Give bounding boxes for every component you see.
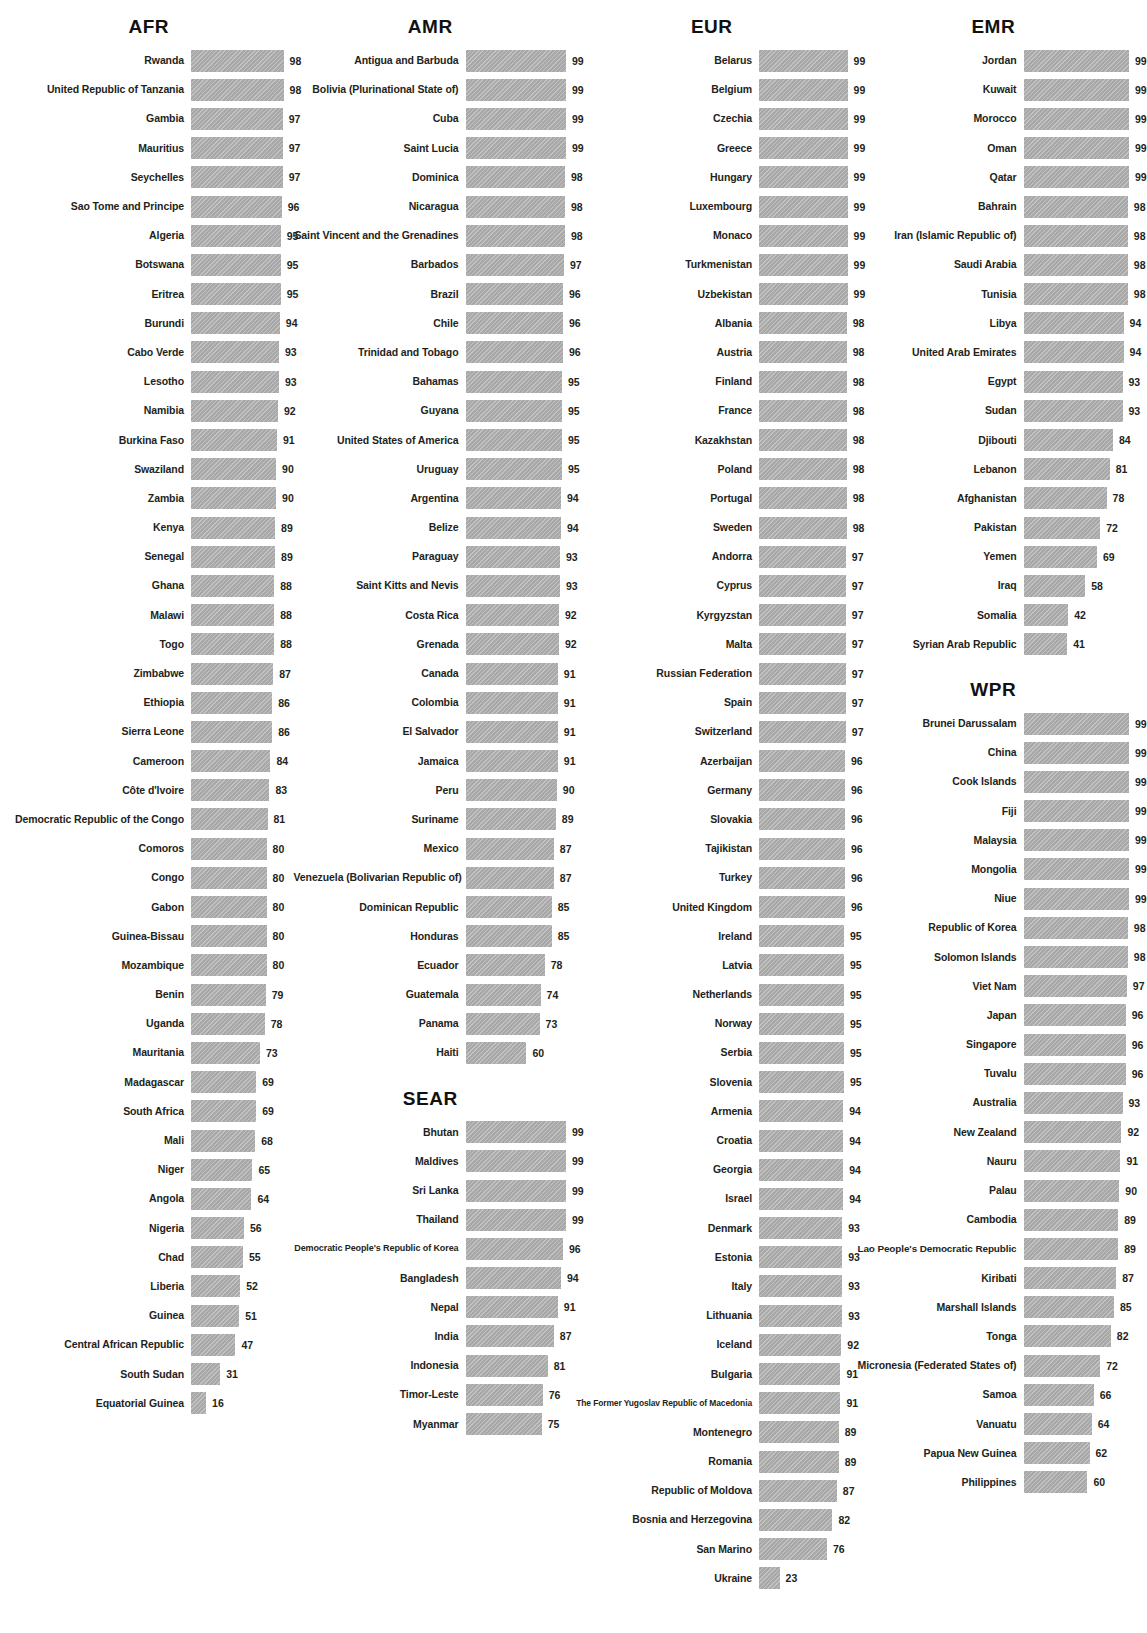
bar-track: 96 bbox=[466, 283, 568, 305]
bar-row: Norway95 bbox=[575, 1009, 849, 1038]
bar bbox=[191, 400, 278, 422]
bar-track: 98 bbox=[759, 487, 849, 509]
bar-row: Armenia94 bbox=[575, 1097, 849, 1126]
bar-row: Antigua and Barbuda99 bbox=[294, 46, 568, 75]
bar bbox=[759, 1363, 840, 1385]
bar bbox=[191, 108, 283, 130]
bar bbox=[466, 721, 558, 743]
bar-track: 97 bbox=[759, 546, 849, 568]
bar-label: Luxembourg bbox=[575, 201, 759, 212]
bar bbox=[191, 166, 283, 188]
bar bbox=[759, 108, 848, 130]
bar-value: 98 bbox=[847, 492, 865, 504]
bar bbox=[759, 458, 847, 480]
bar-value: 89 bbox=[275, 551, 293, 563]
bar-value: 86 bbox=[272, 726, 290, 738]
bar-row: Uganda78 bbox=[12, 1009, 286, 1038]
bar-track: 93 bbox=[1024, 371, 1131, 393]
bar-track: 97 bbox=[191, 108, 286, 130]
bar-row: Syrian Arab Republic41 bbox=[857, 630, 1131, 659]
bar bbox=[1024, 517, 1101, 539]
bar-track: 93 bbox=[466, 546, 568, 568]
bar bbox=[191, 1392, 206, 1414]
bar-value: 95 bbox=[562, 376, 580, 388]
bar-track: 98 bbox=[191, 79, 286, 101]
bar-track: 89 bbox=[191, 546, 286, 568]
bar-track: 76 bbox=[466, 1384, 568, 1406]
bar-row: Yemen69 bbox=[857, 542, 1131, 571]
bar-label: Samoa bbox=[857, 1389, 1024, 1400]
bar-value: 97 bbox=[846, 668, 864, 680]
bar-row: Azerbaijan96 bbox=[575, 747, 849, 776]
bar-row: Slovenia95 bbox=[575, 1068, 849, 1097]
group-title-eur: EUR bbox=[575, 14, 849, 38]
bar-label: Brunei Darussalam bbox=[857, 718, 1024, 729]
group-title-afr: AFR bbox=[12, 14, 286, 38]
bar-track: 87 bbox=[466, 838, 568, 860]
bar-label: Timor-Leste bbox=[294, 1389, 466, 1400]
bar-row: Paraguay93 bbox=[294, 542, 568, 571]
bar-value: 94 bbox=[843, 1164, 861, 1176]
bar-label: Marshall Islands bbox=[857, 1302, 1024, 1313]
bar bbox=[466, 487, 561, 509]
bar-label: Syrian Arab Republic bbox=[857, 639, 1024, 650]
bar-row: Guatemala74 bbox=[294, 980, 568, 1009]
bar-label: Oman bbox=[857, 143, 1024, 154]
bar-row: Palau90 bbox=[857, 1176, 1131, 1205]
bar-value: 97 bbox=[846, 726, 864, 738]
bar-value: 99 bbox=[1129, 747, 1147, 759]
bar-row: Republic of Korea98 bbox=[857, 913, 1131, 942]
bar-row: Eritrea95 bbox=[12, 280, 286, 309]
bar-value: 91 bbox=[558, 697, 576, 709]
bar-label: Paraguay bbox=[294, 551, 466, 562]
bar-track: 31 bbox=[191, 1363, 286, 1385]
bar bbox=[191, 517, 275, 539]
bar-track: 87 bbox=[191, 663, 286, 685]
bar bbox=[759, 225, 848, 247]
bar-label: Uganda bbox=[12, 1018, 191, 1029]
bar-row: Dominican Republic85 bbox=[294, 892, 568, 921]
bar-track: 99 bbox=[1024, 713, 1131, 735]
bar-row: Burkina Faso91 bbox=[12, 425, 286, 454]
bar-label: Jordan bbox=[857, 55, 1024, 66]
bar-label: Greece bbox=[575, 143, 759, 154]
bar-value: 82 bbox=[832, 1514, 850, 1526]
bar-track: 69 bbox=[191, 1100, 286, 1122]
bar-track: 93 bbox=[191, 341, 286, 363]
bar bbox=[466, 1042, 527, 1064]
bar-row: China99 bbox=[857, 738, 1131, 767]
bar-value: 95 bbox=[281, 288, 299, 300]
bar-label: Turkey bbox=[575, 872, 759, 883]
bar-value: 97 bbox=[1127, 980, 1145, 992]
bar-track: 98 bbox=[759, 312, 849, 334]
bar-track: 66 bbox=[1024, 1384, 1131, 1406]
bar-track: 72 bbox=[1024, 517, 1131, 539]
bar-value: 96 bbox=[563, 346, 581, 358]
bar bbox=[1024, 975, 1127, 997]
bar-track: 91 bbox=[191, 429, 286, 451]
bar-row: Japan96 bbox=[857, 1001, 1131, 1030]
bar-value: 89 bbox=[839, 1456, 857, 1468]
bar-value: 95 bbox=[844, 959, 862, 971]
bar bbox=[191, 196, 282, 218]
bar-track: 90 bbox=[191, 487, 286, 509]
bar-label: Singapore bbox=[857, 1039, 1024, 1050]
bar-label: Algeria bbox=[12, 230, 191, 241]
bar bbox=[1024, 829, 1129, 851]
bar-track: 98 bbox=[1024, 917, 1131, 939]
bar-row: Greece99 bbox=[575, 134, 849, 163]
bar-row: Thailand99 bbox=[294, 1205, 568, 1234]
bar bbox=[191, 954, 267, 976]
bar-track: 89 bbox=[1024, 1238, 1131, 1260]
bar-row: Angola64 bbox=[12, 1184, 286, 1213]
bar-track: 84 bbox=[1024, 429, 1131, 451]
bar-row: Mozambique80 bbox=[12, 951, 286, 980]
bar-label: Japan bbox=[857, 1010, 1024, 1021]
bar bbox=[191, 604, 274, 626]
bar-track: 96 bbox=[759, 808, 849, 830]
bar-label: Solomon Islands bbox=[857, 952, 1024, 963]
bar-label: Finland bbox=[575, 376, 759, 387]
bar-value: 55 bbox=[243, 1251, 261, 1263]
bar-row: Tuvalu96 bbox=[857, 1059, 1131, 1088]
bar bbox=[1024, 429, 1113, 451]
